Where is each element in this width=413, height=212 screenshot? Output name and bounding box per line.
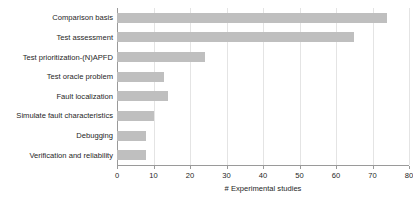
category-label: Test prioritization-(N)APFD	[0, 53, 113, 62]
category-label: Comparison basis	[0, 13, 113, 22]
gridline-80	[409, 8, 410, 165]
bar	[117, 13, 387, 23]
tick-label-70: 70	[368, 171, 376, 180]
bar	[117, 131, 146, 141]
bar-row	[117, 13, 409, 23]
tick-mark-10	[154, 166, 155, 169]
category-label: Debugging	[0, 131, 113, 140]
bar-row	[117, 32, 409, 42]
x-axis-title: # Experimental studies	[117, 184, 409, 193]
tick-label-50: 50	[295, 171, 303, 180]
tick-label-0: 0	[115, 171, 119, 180]
plot-area	[117, 8, 409, 165]
tick-label-20: 20	[186, 171, 194, 180]
category-label: Simulate fault characteristics	[0, 111, 113, 120]
tick-mark-60	[336, 166, 337, 169]
category-axis-labels: Comparison basisTest assessmentTest prio…	[0, 8, 113, 165]
bar-series	[117, 8, 409, 165]
tick-mark-80	[409, 166, 410, 169]
tick-label-80: 80	[405, 171, 413, 180]
bar	[117, 32, 354, 42]
category-label: Fault localization	[0, 92, 113, 101]
tick-label-40: 40	[259, 171, 267, 180]
tick-label-30: 30	[222, 171, 230, 180]
category-label: Test assessment	[0, 33, 113, 42]
bar-row	[117, 131, 409, 141]
bar-row	[117, 72, 409, 82]
category-label: Verification and reliability	[0, 151, 113, 160]
tick-mark-50	[300, 166, 301, 169]
bar	[117, 111, 154, 121]
tick-label-10: 10	[149, 171, 157, 180]
bar-row	[117, 150, 409, 160]
bar	[117, 52, 205, 62]
tick-mark-20	[190, 166, 191, 169]
bar-row	[117, 52, 409, 62]
x-axis-ticks: 01020304050607080	[117, 166, 409, 180]
bar	[117, 91, 168, 101]
bar-row	[117, 91, 409, 101]
tick-label-60: 60	[332, 171, 340, 180]
tick-mark-30	[227, 166, 228, 169]
bar	[117, 72, 164, 82]
category-label: Test oracle problem	[0, 72, 113, 81]
bar-row	[117, 111, 409, 121]
tick-mark-40	[263, 166, 264, 169]
tick-mark-70	[373, 166, 374, 169]
tick-mark-0	[117, 166, 118, 169]
bar	[117, 150, 146, 160]
